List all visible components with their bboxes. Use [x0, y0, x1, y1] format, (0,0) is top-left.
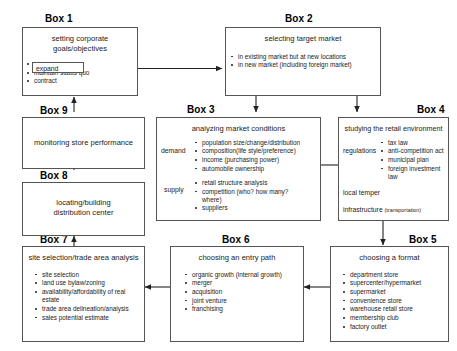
list-item: income (purchasing power)	[193, 156, 320, 164]
box7-title: site selection/trade area analysis	[23, 247, 144, 263]
list-item: convenience store	[341, 297, 448, 305]
list-item: competition (who? how many? where)	[193, 188, 301, 204]
list-item: sales potential estimate	[33, 314, 144, 322]
box8-title-line1: locating/building	[56, 198, 110, 207]
list-item: availability/affordability of real estat…	[33, 288, 144, 304]
list-item: anti-competition act	[379, 147, 448, 155]
list-item: trade area delineation/analysis	[33, 305, 144, 313]
box9-label: Box 9	[40, 105, 68, 116]
list-item: merger	[183, 279, 303, 287]
list-item: land use bylaw/zoning	[33, 279, 144, 287]
list-item: retail structure analysis	[193, 179, 301, 187]
box5-title: choosing a format	[331, 247, 448, 263]
box6-label: Box 6	[222, 234, 250, 245]
list-item: in existing market but at new locations	[229, 53, 380, 61]
list-item: contract	[25, 77, 137, 85]
box4-local-temper: local temper	[343, 189, 380, 196]
box5: choosing a format department store super…	[330, 246, 449, 342]
list-item: foreign investment law	[379, 165, 448, 181]
list-item: population size/change/distribution	[193, 139, 320, 147]
box1-title-line2: goals/objectives	[53, 44, 107, 53]
box4-label: Box 4	[417, 104, 445, 115]
list-item: automobile ownership	[193, 165, 320, 173]
retail-strategy-flow-diagram: Box 1 setting corporate goals/objectives…	[0, 0, 457, 351]
box4-regulations-label: regulations	[343, 147, 376, 154]
box8-title: locating/building distribution center	[23, 183, 144, 217]
list-item: franchising	[183, 305, 303, 313]
box5-label: Box 5	[409, 234, 437, 245]
box2: selecting target market in existing mark…	[225, 27, 381, 96]
list-item: tax law	[379, 139, 448, 147]
list-item: factory outlet	[341, 323, 448, 331]
box3-supply-label: supply	[164, 186, 184, 193]
list-item: municipal plan	[379, 156, 448, 164]
box8-label: Box 8	[40, 170, 68, 181]
box1-expand-highlight: expand	[32, 62, 84, 73]
box1-title: setting corporate goals/objectives	[23, 28, 137, 53]
box7: site selection/trade area analysis site …	[22, 246, 145, 342]
box3-supply-list: retail structure analysis competition (w…	[193, 179, 301, 213]
box4-title: studying the retail environment	[339, 118, 448, 134]
list-item: supermarket	[341, 288, 448, 296]
box6-title: choosing an entry path	[171, 247, 303, 263]
box2-label: Box 2	[285, 13, 313, 24]
list-item: acquisition	[183, 288, 303, 296]
box4-infrastructure-note: (transportation)	[385, 207, 422, 213]
list-item: membership club	[341, 314, 448, 322]
box9-title: monitoring store performance	[23, 118, 144, 148]
list-item: supercenter/hypermarket	[341, 279, 448, 287]
box3-label: Box 3	[187, 104, 215, 115]
list-item: organic growth (internal growth)	[183, 271, 303, 279]
list-item: department store	[341, 271, 448, 279]
list-item: warehouse retail store	[341, 305, 448, 313]
list-item: site selection	[33, 271, 144, 279]
list-item: composition(life style/preference)	[193, 147, 320, 155]
box6-item-list: organic growth (internal growth) merger …	[183, 271, 303, 314]
list-item: joint venture	[183, 297, 303, 305]
list-item: in new market (including foreign market)	[229, 61, 380, 69]
box1-title-line1: setting corporate	[52, 34, 109, 43]
box1-label: Box 1	[45, 13, 73, 24]
box8-title-line2: distribution center	[54, 208, 114, 217]
box4: studying the retail environment regulati…	[338, 117, 449, 221]
box9: monitoring store performance	[22, 117, 145, 169]
box1-expand-label: expand	[33, 63, 83, 74]
box3-title: analyzing market conditions	[157, 118, 320, 134]
box8: locating/building distribution center	[22, 182, 145, 236]
box3-demand-list: population size/change/distribution comp…	[193, 139, 320, 173]
box5-item-list: department store supercenter/hypermarket…	[341, 271, 448, 331]
box4-regulations-list: tax law anti-competition act municipal p…	[379, 139, 448, 182]
box3: analyzing market conditions demand popul…	[156, 117, 321, 221]
box4-infrastructure-label: infrastructure	[343, 206, 383, 213]
box2-item-list: in existing market but at new locations …	[229, 53, 380, 70]
box4-infrastructure: infrastructure (transportation)	[343, 206, 421, 213]
box6: choosing an entry path organic growth (i…	[170, 246, 304, 342]
box3-demand-label: demand	[161, 147, 186, 154]
box7-item-list: site selection land use bylaw/zoning ava…	[33, 271, 144, 322]
box2-title: selecting target market	[226, 28, 380, 44]
list-item: suppliers	[193, 204, 301, 212]
